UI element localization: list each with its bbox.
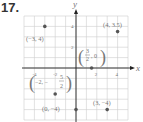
point-label-paren: ( — [78, 47, 84, 68]
y-axis-arrow-icon — [74, 9, 78, 14]
point-label: (0, −4) — [42, 105, 60, 113]
data-point — [90, 66, 94, 70]
point-label-paren: ) — [66, 73, 72, 94]
point-label: (3, −4) — [93, 99, 111, 107]
point-label-rest: , 0 — [91, 53, 97, 59]
y-tick-label: 2 — [71, 45, 74, 50]
x-tick-label: 4 — [116, 72, 119, 77]
point-label-frac-num: 3 — [86, 48, 89, 54]
x-tick-label: 2 — [95, 72, 98, 77]
point-label: (−3, 4) — [26, 35, 44, 43]
data-point — [105, 108, 109, 112]
data-point — [74, 108, 78, 112]
data-point — [116, 30, 120, 34]
point-label-frac-den: 2 — [86, 56, 89, 62]
y-axis-label: y — [72, 0, 77, 9]
x-axis-label: x — [135, 63, 140, 73]
point-label: (4, 3.5) — [103, 21, 122, 29]
point-label-frac-den: 2 — [60, 83, 63, 89]
point-label-frac-num: 5 — [60, 74, 63, 80]
point-label-rest: −2, − — [35, 79, 48, 85]
x-tick-label: -2 — [53, 72, 58, 77]
point-label-paren: ) — [100, 47, 106, 68]
data-point — [53, 92, 57, 96]
data-point — [43, 25, 47, 29]
x-axis-arrow-icon — [130, 66, 135, 70]
coordinate-plane: xy-4-22424(−3, 4)(4, 3.5)(0, −4)(3, −4)(… — [0, 0, 143, 122]
y-tick-label: 4 — [71, 24, 74, 29]
